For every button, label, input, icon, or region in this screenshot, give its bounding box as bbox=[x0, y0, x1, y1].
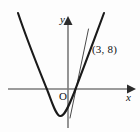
graph-canvas bbox=[0, 0, 140, 132]
tangent-line bbox=[70, 29, 89, 118]
y-axis-label: y bbox=[60, 14, 65, 25]
x-axis-label: x bbox=[126, 92, 131, 103]
origin-label: O bbox=[59, 91, 67, 102]
parabola-tangent-figure: y x O (3, 8) bbox=[0, 0, 140, 132]
tangency-point-label: (3, 8) bbox=[92, 44, 117, 55]
